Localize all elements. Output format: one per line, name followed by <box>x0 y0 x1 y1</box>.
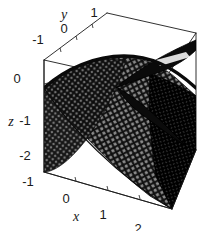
y-axis-name: y <box>59 7 68 22</box>
z-axis-name: z <box>7 114 14 129</box>
plot-3d-surface: -1 0 1 y 0 -1 -2 z -1 0 1 2 x <box>0 0 207 231</box>
z-tick-label-neg1: -1 <box>19 113 31 128</box>
y-tick-label-1: 1 <box>90 5 97 20</box>
x-tick-label-2: 2 <box>134 221 141 231</box>
y-tick-label-neg1: -1 <box>32 32 44 47</box>
y-tick-label-0: 0 <box>60 21 67 36</box>
x-tick-label-neg1: -1 <box>22 174 34 189</box>
z-tick-label-0: 0 <box>13 71 20 86</box>
z-tick-label-neg2: -2 <box>19 148 31 163</box>
surface-plot-canvas: -1 0 1 y 0 -1 -2 z -1 0 1 2 x <box>0 0 207 231</box>
x-tick-label-0: 0 <box>62 191 69 206</box>
x-tick-label-1: 1 <box>99 207 106 222</box>
x-axis-name: x <box>72 209 80 224</box>
